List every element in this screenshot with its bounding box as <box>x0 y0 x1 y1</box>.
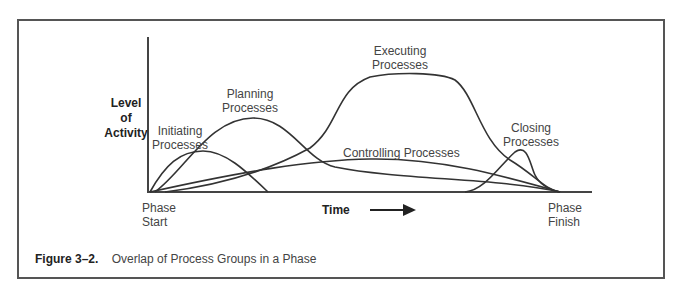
phase-start-label: Phase Start <box>142 201 176 229</box>
label-line: Processes <box>372 58 428 72</box>
controlling-curve <box>150 159 560 192</box>
caption-text: Overlap of Process Groups in a Phase <box>112 252 317 266</box>
y-label-line: Level <box>98 96 154 111</box>
phase-finish-label: Phase Finish <box>548 201 582 229</box>
label-line: Processes <box>503 135 559 149</box>
label-line: Controlling Processes <box>343 146 460 160</box>
label-line: Closing <box>503 121 559 135</box>
label-line: Phase <box>548 201 582 215</box>
label-line: Start <box>142 215 176 229</box>
label-line: Initiating <box>152 124 208 138</box>
label-line: Finish <box>548 215 582 229</box>
y-axis-label: Level of Activity <box>98 96 154 141</box>
figure-caption: Figure 3–2. Overlap of Process Groups in… <box>35 252 316 266</box>
initiating-label: Initiating Processes <box>152 124 208 152</box>
label-line: Executing <box>372 44 428 58</box>
label-line: Planning <box>222 87 278 101</box>
planning-label: Planning Processes <box>222 87 278 115</box>
closing-label: Closing Processes <box>503 121 559 149</box>
y-label-line: of <box>98 111 154 126</box>
label-line: Processes <box>222 101 278 115</box>
label-line: Phase <box>142 201 176 215</box>
caption-number: Figure 3–2. <box>35 252 98 266</box>
time-label: Time <box>322 203 350 217</box>
y-label-line: Activity <box>98 126 154 141</box>
label-line: Processes <box>152 138 208 152</box>
time-arrow-head-icon <box>403 204 416 216</box>
controlling-label: Controlling Processes <box>343 146 460 160</box>
executing-label: Executing Processes <box>372 44 428 72</box>
